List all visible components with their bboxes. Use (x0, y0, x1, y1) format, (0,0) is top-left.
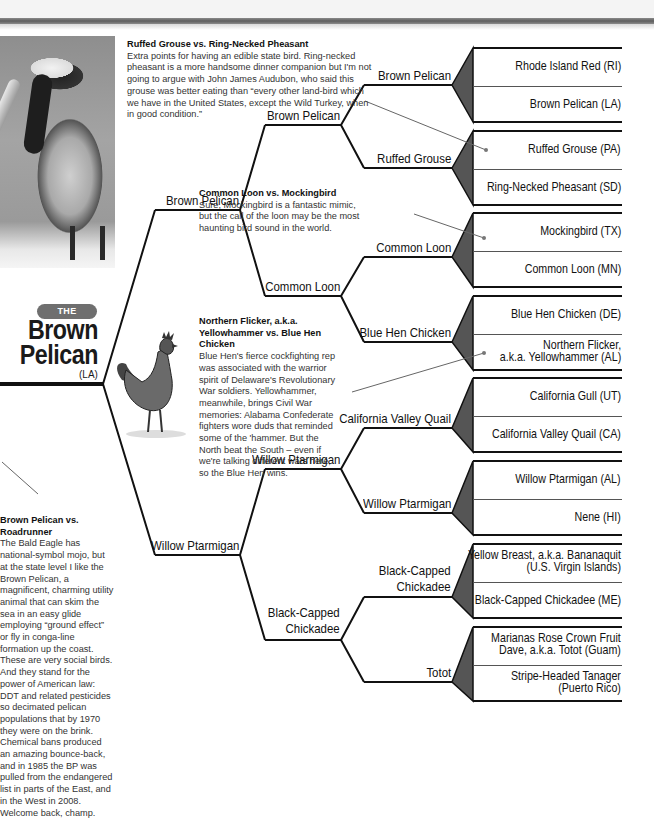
matchup-box: Marianas Rose Crown Fruit Dave, a.k.a. T… (473, 626, 622, 702)
rooster-illustration (112, 330, 192, 440)
matchup-box: Yellow Breast, a.k.a. Bananaquit (U.S. V… (473, 543, 622, 619)
round3-winner-label: Brown Pelican (166, 194, 239, 208)
matchup-divider (473, 499, 622, 500)
article-pelican-vs-roadrunner: Brown Pelican vs. Roadrunner The Bald Ea… (0, 515, 114, 819)
matchup-divider (473, 582, 622, 583)
matchup-box: California Gull (UT) California Valley Q… (473, 377, 622, 453)
round1-winner-label: Blue Hen Chicken (359, 326, 451, 340)
round1-winner-label: Ruffed Grouse (377, 152, 451, 166)
entry-top: Marianas Rose Crown Fruit Dave, a.k.a. T… (491, 632, 621, 656)
entry-bottom-line2: (Puerto Rico) (511, 682, 621, 694)
matchup-divider (473, 86, 622, 87)
entry-top: Ruffed Grouse (PA) (528, 143, 621, 155)
entry-bottom: Black-Capped Chickadee (ME) (475, 594, 621, 606)
matchup-box: Ruffed Grouse (PA) Ring-Necked Pheasant … (473, 130, 622, 206)
round1-winner-label: California Valley Quail (339, 412, 451, 426)
round1-winner-label-line2: Chickadee (379, 579, 451, 595)
round2-winner-label: Willow Ptarmigan (252, 453, 340, 467)
entry-bottom-line2: a.k.a. Yellowhammer (AL) (500, 351, 621, 363)
round1-winner-label: Totot (426, 666, 451, 680)
entry-top: California Gull (UT) (530, 390, 621, 402)
matchup-box: Rhode Island Red (RI) Brown Pelican (LA) (473, 47, 622, 123)
round2-winner-label: Common Loon (265, 280, 340, 294)
entry-top: Willow Ptarmigan (AL) (516, 473, 621, 485)
entry-bottom: Stripe-Headed Tanager (Puerto Rico) (511, 670, 621, 694)
entry-top: Yellow Breast, a.k.a. Bananaquit (U.S. V… (468, 549, 621, 573)
entry-top: Rhode Island Red (RI) (515, 60, 621, 72)
entry-top-line2: Dave, a.k.a. Totot (Guam) (491, 644, 621, 656)
matchup-divider (473, 416, 622, 417)
entry-bottom: Brown Pelican (LA) (530, 98, 621, 110)
entry-bottom: Nene (HI) (575, 511, 621, 523)
round1-winner-label-line1: Black-Capped (379, 563, 451, 579)
round2-winner-label: Brown Pelican (267, 109, 340, 123)
entry-top-line2: (U.S. Virgin Islands) (468, 561, 621, 573)
article-title: Northern Flicker, a.k.a. Yellowhammer vs… (199, 316, 339, 351)
matchup-divider (473, 169, 622, 170)
round1-winner-label: Black-Capped Chickadee (379, 563, 451, 595)
article-title: Brown Pelican vs. Roadrunner (0, 515, 114, 538)
matchup-divider (473, 334, 622, 335)
round3-winner-label: Willow Ptarmigan (151, 539, 239, 553)
article-body: The Bald Eagle has national-symbol mojo,… (0, 538, 113, 817)
matchup-box: Blue Hen Chicken (DE) Northern Flicker, … (473, 295, 622, 371)
round1-winner-label: Brown Pelican (378, 69, 451, 83)
matchup-divider (473, 665, 622, 666)
matchup-box: Mockingbird (TX) Common Loon (MN) (473, 212, 622, 288)
entry-top: Mockingbird (TX) (540, 225, 621, 237)
entry-bottom: California Valley Quail (CA) (492, 428, 621, 440)
entry-bottom: Common Loon (MN) (524, 263, 621, 275)
round1-winner-label: Willow Ptarmigan (363, 497, 451, 511)
article-title: Ruffed Grouse vs. Ring-Necked Pheasant (127, 39, 372, 51)
matchup-divider (473, 251, 622, 252)
matchup-box: Willow Ptarmigan (AL) Nene (HI) (473, 460, 622, 536)
round2-winner-label-line2: Chickadee (268, 621, 340, 637)
round2-winner-label-line1: Black-Capped (268, 605, 340, 621)
round1-winner-label: Common Loon (376, 241, 451, 255)
entry-top: Blue Hen Chicken (DE) (511, 308, 621, 320)
entry-bottom: Ring-Necked Pheasant (SD) (487, 181, 621, 193)
entry-bottom: Northern Flicker, a.k.a. Yellowhammer (A… (500, 339, 621, 363)
round2-winner-label: Black-Capped Chickadee (268, 605, 340, 637)
